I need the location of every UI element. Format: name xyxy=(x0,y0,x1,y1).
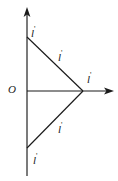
diagram-canvas xyxy=(0,0,118,181)
upper-hypotenuse-line xyxy=(27,37,83,91)
lower-hypotenuse-line xyxy=(27,91,83,148)
upper-segment-label: l' xyxy=(58,50,63,63)
figure-container: O l' l' l' l' l' xyxy=(0,0,118,181)
bottom-vertex-prime-mark: ' xyxy=(36,152,37,161)
origin-label-text: O xyxy=(8,83,16,95)
right-vertex-prime-mark: ' xyxy=(90,71,91,80)
origin-label: O xyxy=(8,84,16,95)
upper-segment-prime-mark: ' xyxy=(61,49,62,58)
lower-segment-label: l' xyxy=(58,122,63,135)
right-vertex-label: l' xyxy=(87,72,92,85)
lower-segment-prime-mark: ' xyxy=(61,121,62,130)
top-vertex-prime-mark: ' xyxy=(34,25,35,34)
top-vertex-label: l' xyxy=(31,26,36,39)
bottom-vertex-label: l' xyxy=(33,153,38,166)
